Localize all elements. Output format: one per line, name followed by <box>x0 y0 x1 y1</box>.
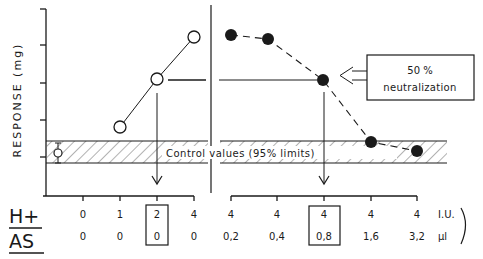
arrow-down-icon <box>319 92 329 184</box>
annotation-line-1: 50 % <box>407 65 432 76</box>
h-value: 1 <box>117 209 123 220</box>
annotation-line-2: neutralization <box>383 82 456 93</box>
chart: RESPONSE (mg) Control values (95% limits… <box>0 0 483 259</box>
bracket <box>461 208 466 244</box>
as-value: 0 <box>191 231 197 242</box>
h-value: 4 <box>368 209 374 220</box>
as-value: 0 <box>154 231 160 242</box>
h-value: 0 <box>80 209 86 220</box>
x-axis-left <box>43 196 194 201</box>
as-value: 0 <box>80 231 86 242</box>
h-value: 4 <box>228 209 234 220</box>
row-label-as: AS <box>9 230 34 252</box>
unit-h: I.U. <box>438 209 455 220</box>
annotation-box <box>340 55 474 100</box>
as-value: 0,8 <box>316 231 332 242</box>
h-value: 4 <box>274 209 280 220</box>
y-axis-label: RESPONSE (mg) <box>11 43 24 158</box>
h-value: 4 <box>414 209 420 220</box>
as-value: 3,2 <box>409 231 425 242</box>
h-value: 4 <box>321 209 327 220</box>
x-axis-right <box>231 196 417 201</box>
as-value: 0 <box>117 231 123 242</box>
unit-as: µl <box>438 231 447 242</box>
y-axis <box>40 9 46 196</box>
arrow-down-icon <box>152 93 162 184</box>
control-band-label: Control values (95% limits) <box>166 148 315 159</box>
row-label-h: H+ <box>9 205 39 227</box>
h-value: 2 <box>154 209 160 220</box>
as-value: 0,4 <box>269 231 285 242</box>
h-value: 4 <box>191 209 197 220</box>
as-value: 1,6 <box>363 231 379 242</box>
as-value: 0,2 <box>223 231 239 242</box>
